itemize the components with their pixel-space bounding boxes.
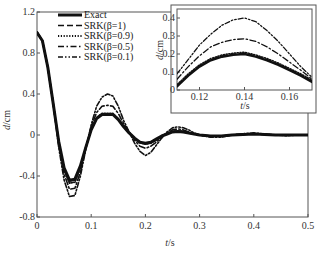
x-tick-label: 0.4 (248, 220, 261, 231)
x-tick-label: 0.1 (85, 220, 98, 231)
x-tick-label: 0 (35, 220, 40, 231)
y-tick-label: -0.8 (19, 211, 35, 222)
y-tick-label: 0.8 (23, 47, 36, 58)
x-tick-label: 0.3 (193, 220, 206, 231)
x-tick-label: 0.16 (281, 91, 299, 102)
inset-y-axis-label: d/cm (154, 40, 165, 60)
x-axis-label: t/s (165, 237, 175, 248)
legend-label: Exact (84, 9, 107, 20)
figure: 00.10.20.30.40.5-0.8-0.400.40.81.2 Exact… (0, 0, 320, 257)
y-tick-label: 0 (170, 84, 175, 95)
y-tick-label: 0.4 (163, 12, 176, 23)
y-tick-label: 0.3 (163, 30, 176, 41)
y-tick-label: 0.4 (23, 88, 36, 99)
inset-plot: 0.120.140.1600.10.20.30.4t/sd/cm (154, 5, 316, 113)
x-tick-label: 0.12 (191, 91, 209, 102)
inset-x-axis-label: t/s (240, 100, 250, 111)
y-tick-label: 1.2 (23, 6, 36, 17)
x-tick-label: 0.2 (139, 220, 152, 231)
legend-label: SRK(β=0.1) (84, 51, 133, 63)
inset-frame (177, 9, 312, 90)
y-tick-label: 0.1 (163, 66, 176, 77)
x-tick-label: 0.5 (302, 220, 315, 231)
y-tick-label: 0 (30, 129, 35, 140)
y-tick-label: -0.4 (19, 170, 35, 181)
y-axis-label: d/cm (1, 110, 12, 130)
